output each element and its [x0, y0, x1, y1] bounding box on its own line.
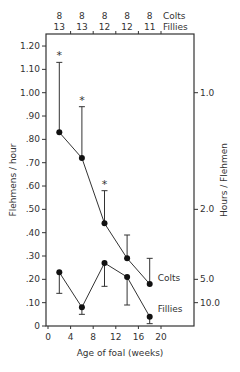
- series-label-fillies: Fillies: [158, 304, 183, 314]
- data-series: ***ColtsFillies: [56, 49, 182, 323]
- x-tick-label: 0: [45, 332, 51, 342]
- right-y-tick-label: 5.0: [200, 274, 215, 284]
- colts-n-label: 8: [79, 11, 85, 21]
- data-point: [79, 155, 85, 161]
- data-point: [56, 269, 62, 275]
- significance-asterisk: *: [79, 94, 85, 107]
- right-y-axis-label: Hours / Flehmen: [219, 143, 229, 217]
- y-tick-label: .20: [26, 274, 41, 284]
- right-y-tick-label: 10.0: [200, 298, 220, 308]
- y-tick-label: .30: [26, 251, 41, 261]
- y-tick-label: .60: [26, 181, 41, 191]
- x-tick-label: 4: [68, 332, 74, 342]
- top-fillies-label: Fillies: [163, 22, 188, 32]
- right-y-axis: 1.02.05.010.0: [194, 88, 220, 308]
- data-point: [124, 274, 130, 280]
- y-tick-label: .90: [26, 111, 41, 121]
- flehmen-chart: 0.10.20.30.40.50.60.70.80.901.001.101.20…: [0, 0, 240, 372]
- x-tick-label: 20: [155, 332, 167, 342]
- right-y-tick-label: 1.0: [200, 88, 215, 98]
- data-point: [102, 260, 108, 266]
- colts-n-label: 8: [124, 11, 130, 21]
- x-axis-label: Age of foal (weeks): [77, 348, 164, 358]
- y-tick-label: .70: [26, 158, 41, 168]
- significance-asterisk: *: [102, 178, 108, 191]
- data-point: [102, 220, 108, 226]
- colts-n-label: 8: [147, 11, 153, 21]
- fillies-n-label: 13: [54, 22, 65, 32]
- fillies-n-label: 11: [144, 22, 155, 32]
- data-point: [56, 129, 62, 135]
- significance-asterisk: *: [57, 49, 63, 62]
- y-tick-label: .10: [26, 298, 41, 308]
- y-tick-label: 1.10: [20, 64, 40, 74]
- data-point: [147, 314, 153, 320]
- y-tick-label: 1.20: [20, 41, 40, 51]
- colts-n-label: 8: [56, 11, 62, 21]
- y-tick-label: .80: [26, 134, 41, 144]
- data-point: [124, 255, 130, 261]
- y-tick-label: .40: [26, 228, 41, 238]
- y-tick-label: 0: [34, 321, 40, 331]
- right-y-tick-label: 2.0: [200, 204, 215, 214]
- y-axis-label: Flehmens / hour: [8, 143, 18, 216]
- top-colts-label: Colts: [163, 11, 186, 21]
- data-point: [79, 304, 85, 310]
- y-tick-label: .50: [26, 204, 41, 214]
- x-tick-label: 16: [133, 332, 145, 342]
- x-tick-label: 8: [90, 332, 96, 342]
- colts-n-label: 8: [102, 11, 108, 21]
- top-sample-size-axis: 813813812812811ColtsFillies: [54, 11, 188, 34]
- fillies-n-label: 13: [76, 22, 87, 32]
- series-label-colts: Colts: [158, 273, 181, 283]
- x-axis: 048121620: [45, 326, 167, 342]
- fillies-n-label: 12: [121, 22, 132, 32]
- x-tick-label: 12: [110, 332, 121, 342]
- left-y-axis: 0.10.20.30.40.50.60.70.80.901.001.101.20: [20, 41, 46, 331]
- y-tick-label: 1.00: [20, 88, 40, 98]
- data-point: [147, 281, 153, 287]
- fillies-n-label: 12: [99, 22, 110, 32]
